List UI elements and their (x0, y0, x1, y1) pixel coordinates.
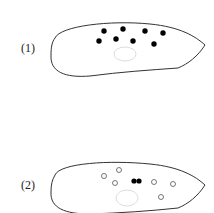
nucleus-1 (114, 47, 136, 61)
filled-pair-2 (131, 178, 141, 183)
cell-2-outline (51, 162, 205, 213)
cell-1-outline (51, 23, 205, 77)
cell-1 (51, 23, 205, 77)
diagram-canvas (0, 0, 214, 213)
nucleus-2 (116, 190, 138, 206)
cell-2 (51, 162, 205, 213)
granules-1 (96, 26, 165, 46)
